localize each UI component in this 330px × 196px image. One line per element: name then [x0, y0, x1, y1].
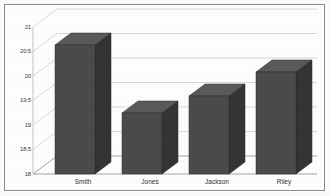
gridline-21 — [33, 9, 317, 27]
bar-jones-side — [162, 101, 178, 174]
bar-smith-front — [55, 45, 95, 174]
bar-riley-front — [256, 72, 296, 174]
bar-jackson-front — [189, 96, 229, 174]
ytick-label-19-5: 19.5 — [7, 97, 31, 103]
ytick-label-20: 20 — [7, 73, 31, 79]
bar-smith-side — [95, 33, 111, 174]
xtick-label-riley: Riley — [257, 178, 311, 185]
bar-smith[interactable] — [55, 33, 111, 174]
ytick-label-18-5: 18.5 — [7, 146, 31, 152]
chart-screenshot: 21 20.5 20 19.5 19 18.5 18 Smith Jones J… — [0, 0, 330, 196]
bar-jackson[interactable] — [189, 84, 245, 174]
bar-riley[interactable] — [256, 60, 312, 174]
xtick-label-jackson: Jackson — [190, 178, 244, 185]
xtick-label-smith: Smith — [56, 178, 110, 185]
ytick-label-19: 19 — [7, 122, 31, 128]
bar-jones-front — [122, 113, 162, 174]
ytick-label-21: 21 — [7, 24, 31, 30]
bar-jackson-side — [229, 84, 245, 174]
bar-jones[interactable] — [122, 101, 178, 174]
bar-riley-side — [296, 60, 312, 174]
bar-chart-plot — [0, 0, 330, 196]
xtick-label-jones: Jones — [123, 178, 177, 185]
ytick-label-20-5: 20.5 — [7, 48, 31, 54]
ytick-label-18: 18 — [7, 171, 31, 177]
